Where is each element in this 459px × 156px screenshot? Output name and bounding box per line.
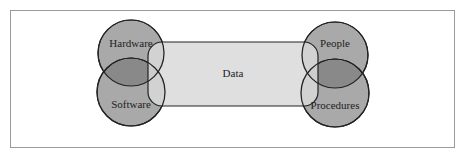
- people-label: People: [320, 37, 350, 49]
- software-label: Software: [111, 98, 151, 110]
- info-system-diagram: Hardware Software People Procedures Data: [0, 0, 459, 156]
- procedures-label: Procedures: [311, 99, 360, 111]
- hardware-label: Hardware: [109, 37, 152, 49]
- data-label: Data: [223, 67, 244, 79]
